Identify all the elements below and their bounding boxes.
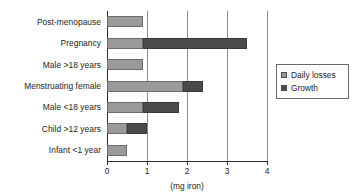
legend-label: Growth xyxy=(291,82,318,94)
bar-segment-growth xyxy=(143,38,247,49)
x-tick-label: 1 xyxy=(145,166,150,176)
category-label: Post-menopause xyxy=(37,16,101,28)
x-tick xyxy=(227,161,228,165)
iron-requirements-bar-chart: Post-menopausePregnancyMale >18 yearsMen… xyxy=(0,0,362,194)
legend-label: Daily losses xyxy=(291,69,336,81)
bar-segment-daily-losses xyxy=(107,38,143,49)
x-tick-label: 4 xyxy=(265,166,270,176)
category-label: Male <18 years xyxy=(43,101,101,113)
gridline xyxy=(267,11,268,161)
x-tick xyxy=(107,161,108,165)
bar-segment-daily-losses xyxy=(107,102,143,113)
bar-segment-daily-losses xyxy=(107,81,183,92)
x-tick xyxy=(267,161,268,165)
bar-segment-daily-losses xyxy=(107,145,127,156)
bar-segment-growth xyxy=(183,81,203,92)
category-label: Pregnancy xyxy=(61,37,102,49)
x-tick xyxy=(147,161,148,165)
category-label: Infant <1 year xyxy=(49,144,101,156)
legend-swatch-icon xyxy=(281,72,287,78)
bar-segment-growth xyxy=(143,102,179,113)
x-tick-label: 2 xyxy=(185,166,190,176)
category-label: Child >12 years xyxy=(42,123,101,135)
bar-segment-daily-losses xyxy=(107,16,143,27)
plot-area: 01234 (mg iron) xyxy=(107,11,267,161)
x-axis-title: (mg iron) xyxy=(107,181,267,191)
x-tick-label: 3 xyxy=(225,166,230,176)
x-tick-label: 0 xyxy=(105,166,110,176)
legend-swatch-icon xyxy=(281,85,287,91)
bar-segment-daily-losses xyxy=(107,59,143,70)
gridline xyxy=(227,11,228,161)
category-axis-labels: Post-menopausePregnancyMale >18 yearsMen… xyxy=(0,11,104,161)
bar-segment-daily-losses xyxy=(107,123,127,134)
x-tick xyxy=(187,161,188,165)
legend-item: Growth xyxy=(281,82,344,94)
bar-segment-growth xyxy=(127,123,147,134)
legend-item: Daily losses xyxy=(281,69,344,81)
chart-legend: Daily lossesGrowth xyxy=(276,64,349,99)
category-label: Menstruating female xyxy=(24,80,101,92)
category-label: Male >18 years xyxy=(43,59,101,71)
